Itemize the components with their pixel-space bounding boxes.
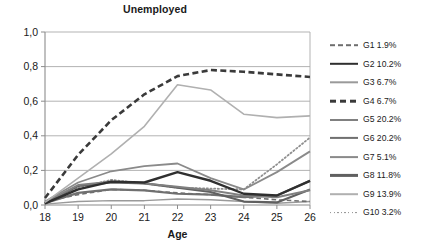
legend-line-sample [330, 137, 358, 139]
legend-line-sample [330, 45, 358, 47]
legend-item[interactable]: G5 20.2% [330, 110, 423, 129]
x-axis-tick-label: 18 [39, 211, 51, 223]
legend-swatch [330, 152, 358, 162]
legend-item[interactable]: G2 10.2% [330, 55, 423, 74]
x-axis-tick-label: 26 [304, 211, 316, 223]
y-axis-tick-label: 0,8 [23, 60, 38, 72]
legend-item[interactable]: G6 20.2% [330, 129, 423, 148]
chart-legend: G1 1.9%G2 10.2%G3 6.7%G4 6.7%G5 20.2%G6 … [330, 36, 423, 222]
legend-line-sample [330, 212, 358, 214]
legend-swatch [330, 59, 358, 69]
legend-swatch [330, 189, 358, 199]
legend-item[interactable]: G3 6.7% [330, 73, 423, 92]
chart-container: Unemployed 0,00,20,40,60,81,018192021222… [0, 0, 423, 250]
legend-line-sample [330, 174, 358, 176]
legend-swatch [330, 208, 358, 218]
legend-swatch [330, 133, 358, 143]
y-axis-tick-label: 0,6 [23, 95, 38, 107]
legend-label: G6 20.2% [363, 134, 401, 143]
legend-swatch [330, 170, 358, 180]
legend-line-sample [330, 82, 358, 83]
x-axis-tick-label: 22 [172, 211, 184, 223]
x-axis-tick-label: 19 [72, 211, 84, 223]
legend-label: G4 6.7% [363, 97, 396, 106]
y-axis-tick-label: 1,0 [23, 26, 38, 38]
x-axis-tick-label: 20 [105, 211, 117, 223]
legend-swatch [330, 115, 358, 125]
legend-label: G5 20.2% [363, 115, 401, 124]
legend-label: G1 1.9% [363, 41, 396, 50]
legend-label: G10 3.2% [363, 208, 401, 217]
legend-swatch [330, 77, 358, 87]
legend-item[interactable]: G9 13.9% [330, 185, 423, 204]
x-axis-title: Age [168, 228, 188, 240]
series-line [45, 70, 310, 198]
legend-label: G3 6.7% [363, 78, 396, 87]
legend-item[interactable]: G7 5.1% [330, 148, 423, 167]
legend-label: G9 13.9% [363, 190, 401, 199]
legend-swatch [330, 96, 358, 106]
legend-item[interactable]: G8 11.8% [330, 166, 423, 185]
legend-line-sample [330, 63, 358, 65]
legend-label: G8 11.8% [363, 171, 401, 180]
x-axis-tick-label: 24 [238, 211, 250, 223]
legend-item[interactable]: G10 3.2% [330, 203, 423, 222]
y-axis-tick-label: 0,4 [23, 129, 38, 141]
legend-label: G2 10.2% [363, 60, 401, 69]
legend-item[interactable]: G4 6.7% [330, 92, 423, 111]
legend-line-sample [330, 100, 358, 103]
legend-line-sample [330, 119, 358, 121]
legend-label: G7 5.1% [363, 153, 396, 162]
legend-item[interactable]: G1 1.9% [330, 36, 423, 55]
legend-line-sample [330, 193, 358, 195]
x-axis-tick-label: 25 [271, 211, 283, 223]
legend-swatch [330, 40, 358, 50]
x-axis-tick-label: 21 [139, 211, 151, 223]
x-axis-tick-label: 23 [205, 211, 217, 223]
y-axis-tick-label: 0,0 [23, 199, 38, 211]
legend-line-sample [330, 156, 358, 158]
y-axis-tick-label: 0,2 [23, 164, 38, 176]
